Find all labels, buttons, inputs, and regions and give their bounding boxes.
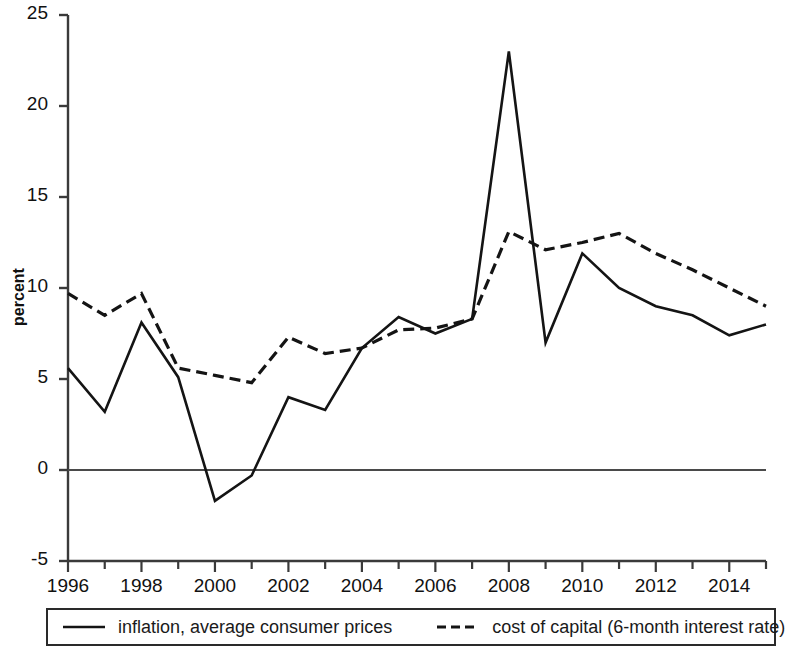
y-axis-tick-label: 5 <box>8 366 48 388</box>
series-line-inflation <box>68 51 766 501</box>
legend-dashed-line-icon <box>436 620 480 634</box>
x-axis-tick-label: 2006 <box>400 575 470 597</box>
x-axis-tick-label: 2004 <box>327 575 397 597</box>
x-axis-tick-label: 2008 <box>474 575 544 597</box>
x-axis-tick-label: 2002 <box>253 575 323 597</box>
y-axis-tick-label: 0 <box>8 457 48 479</box>
legend-solid-line-icon <box>62 620 106 634</box>
chart-legend: inflation, average consumer prices cost … <box>46 608 776 646</box>
legend-item-cost-of-capital: cost of capital (6-month interest rate) <box>436 617 785 638</box>
x-axis-tick-label: 2000 <box>180 575 250 597</box>
x-axis-tick-label: 2014 <box>694 575 764 597</box>
legend-item-inflation: inflation, average consumer prices <box>62 617 392 638</box>
y-axis-tick-label: 15 <box>8 184 48 206</box>
x-axis-tick-label: 1996 <box>33 575 103 597</box>
legend-label-inflation: inflation, average consumer prices <box>118 617 392 638</box>
y-axis-tick-label: 20 <box>8 93 48 115</box>
x-axis-tick-label: 2012 <box>621 575 691 597</box>
x-axis-tick-label: 2010 <box>547 575 617 597</box>
y-axis-tick-label: -5 <box>8 548 48 570</box>
legend-label-cost-of-capital: cost of capital (6-month interest rate) <box>492 617 785 638</box>
x-axis-tick-label: 1998 <box>106 575 176 597</box>
y-axis-tick-label: 10 <box>8 275 48 297</box>
y-axis-tick-label: 25 <box>8 2 48 24</box>
